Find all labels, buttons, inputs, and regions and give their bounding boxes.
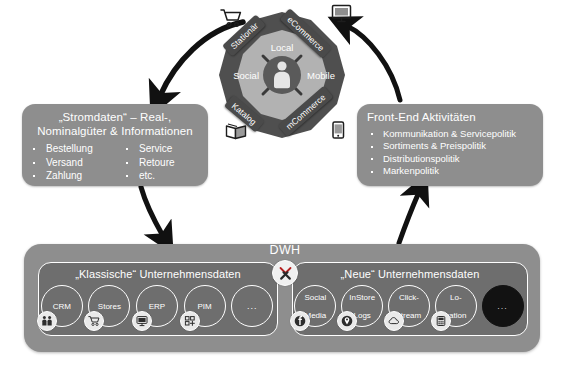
node-social-media[interactable]: Social Media <box>294 285 338 329</box>
group-neue-unternehmensdaten[interactable]: „Neue“ Unternehmensdaten Social Media <box>292 262 528 336</box>
device-grid-icon <box>431 311 451 331</box>
shopping-cart-icon <box>220 8 242 32</box>
bullet-versand: Versand <box>30 156 123 170</box>
group-klassische-nodes: CRM Stores <box>39 285 277 329</box>
panel-front-end-aktivitaeten[interactable]: Front-End Aktivitäten Kommunikation & Se… <box>357 104 543 186</box>
node-erp-label: ERP <box>149 302 165 311</box>
node-more-klassisch-label: ... <box>247 302 258 311</box>
node-more-neu[interactable]: ... <box>482 285 526 329</box>
mobile-phone-icon <box>329 120 347 144</box>
node-erp[interactable]: ERP <box>136 285 180 329</box>
panel-front-end-title: Front-End Aktivitäten <box>357 104 543 125</box>
cloud-icon <box>384 311 404 331</box>
dwh-label: DWH <box>255 243 315 257</box>
node-more-neu-label: ... <box>497 302 508 311</box>
bullet-zahlung: Zahlung <box>30 169 123 183</box>
node-pim[interactable]: PIM <box>184 285 228 329</box>
arrow-left-panel-to-dwh <box>141 187 163 236</box>
bullet-bestellung: Bestellung <box>30 142 123 156</box>
desktop-computer-icon <box>331 4 353 28</box>
wheel-inner-label-mobile: Mobile <box>307 70 347 81</box>
node-location[interactable]: Lo- cation <box>435 285 479 329</box>
shopping-cart-icon <box>84 311 104 331</box>
node-clickstream[interactable]: Click- stream <box>388 285 432 329</box>
node-crm-label: CRM <box>53 302 71 311</box>
node-crm[interactable]: CRM <box>41 285 85 329</box>
node-pim-label: PIM <box>197 302 211 311</box>
people-icon <box>37 311 57 331</box>
node-location-label-line1: Lo- <box>445 293 466 302</box>
desktop-computer-icon <box>132 311 152 331</box>
bullet-markenpolitik: Markenpolitik <box>367 165 543 178</box>
dwh-container[interactable]: DWH „Klassische“ Unternehmensdaten CRM <box>24 244 540 352</box>
bullet-sortiments-preispolitik: Sortiments & Preispolitik <box>367 140 543 153</box>
wheel-inner-label-local: Local <box>262 42 302 53</box>
diagram-canvas: Local Mobile Social Stationär eCommerce … <box>0 0 564 366</box>
node-more-klassisch-ring: ... <box>231 285 273 327</box>
bullet-distributionspolitik: Distributionspolitik <box>367 153 543 166</box>
bullet-column-1: Bestellung Versand Zahlung <box>30 142 123 183</box>
node-instore-logs[interactable]: InStore Logs <box>341 285 385 329</box>
node-clickstream-label-line1: Click- <box>397 293 421 302</box>
group-klassische-title: „Klassische“ Unternehmensdaten <box>39 263 277 280</box>
panel-stromdaten-title-line2: Nominalgüter & Informationen <box>28 125 202 139</box>
catalog-book-icon <box>225 122 247 144</box>
location-pin-icon <box>337 311 357 331</box>
group-neue-nodes: Social Media InStore <box>293 285 527 329</box>
panel-stromdaten-title: „Stromdaten“ – Real-, Nominalgüter & Inf… <box>22 104 208 138</box>
wheel-inner-label-social: Social <box>219 70 259 81</box>
node-stores[interactable]: Stores <box>88 285 132 329</box>
tools-wrench-screwdriver-icon[interactable] <box>272 260 298 286</box>
bullet-retoure: Retoure <box>123 156 200 170</box>
bullet-etc: etc. <box>123 169 200 183</box>
node-more-neu-ring: ... <box>482 285 524 327</box>
panel-stromdaten-bullets: Bestellung Versand Zahlung Service Retou… <box>22 138 208 183</box>
arrow-right-panel-to-wheel <box>347 26 400 100</box>
group-neue-title: „Neue“ Unternehmensdaten <box>293 263 527 280</box>
group-klassische-unternehmensdaten[interactable]: „Klassische“ Unternehmensdaten CRM <box>38 262 278 336</box>
bullet-kommunikation-servicepolitik: Kommunikation & Servicepolitik <box>367 128 543 141</box>
node-more-klassisch[interactable]: ... <box>231 285 275 329</box>
facebook-f-icon <box>290 311 310 331</box>
node-stores-label: Stores <box>98 302 121 311</box>
grid-blocks-icon <box>180 311 200 331</box>
panel-stromdaten[interactable]: „Stromdaten“ – Real-, Nominalgüter & Inf… <box>22 104 208 186</box>
node-social-media-label-line1: Social <box>304 293 326 302</box>
bullet-column-2: Service Retoure etc. <box>123 142 200 183</box>
bullet-service: Service <box>123 142 200 156</box>
panel-stromdaten-title-line1: „Stromdaten“ – Real-, <box>28 111 202 125</box>
arrow-dwh-to-right-panel <box>399 192 419 243</box>
panel-front-end-bullets: Kommunikation & Servicepolitik Sortiment… <box>357 125 543 178</box>
node-instore-logs-label-line1: InStore <box>349 293 375 302</box>
